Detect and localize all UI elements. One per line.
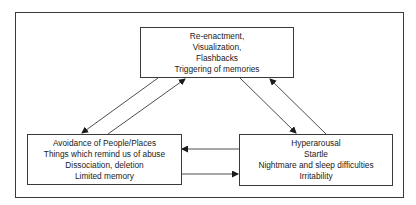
node-text-line: Startle xyxy=(304,149,328,160)
node-text-line: Re-enactment, xyxy=(190,31,244,42)
node-reexperiencing: Re-enactment, Visualization, Flashbacks … xyxy=(140,27,294,78)
arrow-top-to-hyperarousal xyxy=(240,78,296,133)
node-text-line: Limited memory xyxy=(75,171,134,182)
node-text-line: Dissociation, deletion xyxy=(65,160,143,171)
node-text-line: Avoidance of People/Places xyxy=(53,138,156,149)
node-text-line: Flashbacks xyxy=(196,53,238,64)
node-text-line: Visualization, xyxy=(193,42,242,53)
node-text-line: Things which remind us of abuse xyxy=(44,149,165,160)
node-text-line: Triggering of memories xyxy=(175,64,260,75)
arrow-hyperarousal-to-top xyxy=(270,79,326,134)
node-hyperarousal: Hyperarousal Startle Nightmare and sleep… xyxy=(239,134,393,186)
node-avoidance: Avoidance of People/Places Things which … xyxy=(27,134,182,185)
node-text-line: Irritability xyxy=(299,171,332,182)
arrow-avoidance-to-top xyxy=(108,79,185,134)
node-text-line: Nightmare and sleep difficulties xyxy=(258,160,373,171)
node-text-line: Hyperarousal xyxy=(291,138,340,149)
arrow-top-to-avoidance xyxy=(82,78,158,133)
